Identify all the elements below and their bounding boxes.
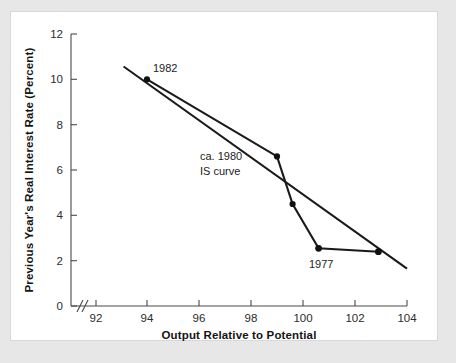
data-point-convergence: [375, 248, 382, 255]
y-tick-label-4: 4: [57, 209, 64, 221]
annotation-is-curve-line1: ca. 1980: [200, 150, 242, 162]
is-curve-line: [124, 67, 407, 269]
x-tick-marks: [96, 300, 407, 306]
figure-card: 0 2 4 6 8 10 12 92 94 96 98 100 102 104 …: [10, 11, 438, 341]
x-tick-label-104: 104: [397, 312, 417, 324]
y-tick-label-0: 0: [57, 300, 63, 312]
data-point-1982: [144, 76, 150, 82]
annotation-1982: 1982: [153, 62, 177, 74]
x-tick-label-94: 94: [141, 312, 154, 324]
chart-plot: 0 2 4 6 8 10 12 92 94 96 98 100 102 104 …: [11, 12, 439, 342]
x-tick-label-92: 92: [90, 312, 103, 324]
y-tick-label-12: 12: [50, 28, 63, 40]
x-tick-label-96: 96: [193, 312, 206, 324]
y-tick-label-6: 6: [57, 164, 63, 176]
annotation-1977: 1977: [309, 258, 333, 270]
y-tick-label-2: 2: [57, 255, 63, 267]
y-tick-label-8: 8: [57, 119, 63, 131]
x-tick-label-102: 102: [345, 312, 364, 324]
x-tick-label-100: 100: [293, 312, 312, 324]
annotation-is-curve-line2: IS curve: [200, 165, 240, 177]
data-point-kink-lower: [290, 201, 296, 207]
y-axis-title: Previous Year's Real Interest Rate (Perc…: [23, 47, 35, 292]
y-tick-label-10: 10: [50, 73, 63, 85]
x-axis-title: Output Relative to Potential: [162, 329, 317, 341]
y-tick-marks: [71, 34, 77, 306]
data-point-kink-upper: [274, 153, 280, 159]
data-point-1977: [315, 245, 322, 252]
x-tick-label-98: 98: [245, 312, 258, 324]
